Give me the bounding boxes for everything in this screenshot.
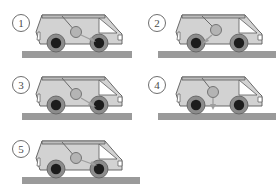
- rear-wheel-tire: [51, 164, 61, 174]
- panel-label-5: 5: [12, 140, 30, 158]
- front-wheel-tire: [94, 100, 104, 110]
- headlight: [118, 161, 122, 166]
- diagram-panel-4: 4: [140, 64, 280, 126]
- rear-wheel-tire: [51, 100, 61, 110]
- panel-label-1: 1: [12, 14, 30, 32]
- van-roof: [42, 141, 105, 144]
- pendulum-bob: [71, 89, 82, 100]
- ground-bar: [22, 51, 132, 58]
- pendulum-bob: [208, 87, 219, 98]
- rear-wheel-tire: [191, 38, 201, 48]
- headlight: [118, 97, 122, 102]
- diagram-panel-5: 5: [0, 126, 140, 188]
- ground-bar: [158, 51, 276, 58]
- physics-diagram-figure: 1 2: [0, 0, 280, 190]
- front-wheel-tire: [94, 38, 104, 48]
- ground-bar: [22, 113, 132, 120]
- front-wheel-tire: [234, 38, 244, 48]
- headlight: [258, 97, 262, 102]
- headlight: [118, 35, 122, 40]
- ground-bar: [158, 113, 276, 120]
- panel-label-4: 4: [148, 76, 166, 94]
- van-illustration-1: [0, 2, 140, 64]
- van-roof: [42, 77, 105, 80]
- acceleration-arrow-head-icon: [210, 104, 216, 110]
- diagram-panel-3: 3: [0, 64, 140, 126]
- diagram-panel-1: 1: [0, 2, 140, 64]
- van-illustration-3: [0, 64, 140, 126]
- van-roof: [182, 77, 245, 80]
- panel-label-2: 2: [148, 14, 166, 32]
- rear-wheel-tire: [191, 100, 201, 110]
- rear-wheel-tire: [51, 38, 61, 48]
- van-illustration-4: [140, 64, 280, 126]
- headlight: [258, 35, 262, 40]
- panel-label-3: 3: [12, 76, 30, 94]
- pendulum-bob: [71, 153, 82, 164]
- van-roof: [182, 15, 245, 18]
- pendulum-bob: [211, 25, 222, 36]
- van-roof: [42, 15, 105, 18]
- front-wheel-tire: [234, 100, 244, 110]
- diagram-panel-2: 2: [140, 2, 280, 64]
- pendulum-bob: [71, 27, 82, 38]
- ground-bar: [22, 177, 140, 184]
- van-illustration-2: [140, 2, 280, 64]
